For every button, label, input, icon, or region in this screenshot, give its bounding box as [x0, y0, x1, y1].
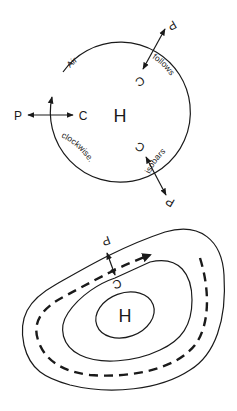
pressure-label-top-right: P	[165, 17, 179, 33]
high-pressure-label-bottom: H	[119, 306, 132, 326]
pressure-label-left: P	[14, 109, 22, 123]
curved-text-follows: follows	[151, 51, 177, 77]
curved-text-clockwise: clockwise.	[60, 130, 96, 164]
coriolis-label-top-right: C	[132, 73, 147, 90]
coriolis-label-bottom-right: C	[132, 139, 147, 156]
high-pressure-label: H	[114, 106, 127, 126]
coriolis-label-bottom: C	[110, 276, 123, 292]
curved-text-isobars: isobars	[143, 146, 168, 175]
anticyclone-diagram: H Air follows isobars clockwise. P C P C…	[0, 0, 237, 411]
bottom-diagram: H P C	[22, 229, 224, 390]
pressure-label-bottom: P	[100, 233, 112, 249]
coriolis-label-left: C	[79, 109, 88, 123]
top-diagram: H Air follows isobars clockwise. P C P C…	[14, 17, 190, 210]
pressure-label-bottom-right: P	[163, 194, 177, 210]
